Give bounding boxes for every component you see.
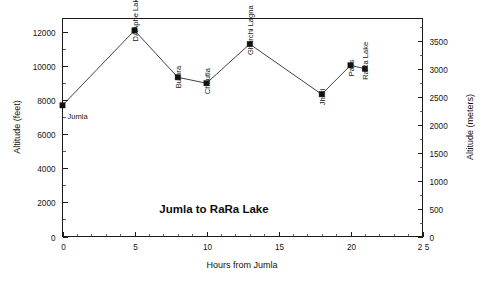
y-right-tick-label: 2500 <box>430 94 449 103</box>
x-tick-label: 2 5 <box>418 243 430 252</box>
x-tick-label: 10 <box>203 243 213 252</box>
x-axis-ticks: 051015202 5 <box>61 232 429 252</box>
y-axis-right-title: Altitude (meters) <box>465 94 475 160</box>
y-right-tick-label: 3000 <box>430 66 449 75</box>
x-axis-title: Hours from Jumla <box>206 260 277 270</box>
data-point-label: DAAphe Lakh <box>131 0 140 41</box>
y-left-tick-label: 8000 <box>37 97 56 106</box>
data-point-label: Jumla <box>68 112 89 121</box>
y-left-tick-label: 4000 <box>37 165 56 174</box>
x-tick-label: 20 <box>347 243 357 252</box>
data-point-label: RaRa Lake <box>361 42 370 80</box>
data-point-label: Chautla <box>203 67 212 94</box>
x-tick-label: 0 <box>61 243 66 252</box>
data-point-label: Ghurchi Lagna <box>246 4 255 55</box>
y-left-tick-label: 0 <box>51 234 56 243</box>
data-point-label: Jhari <box>318 89 327 106</box>
data-point-label: Bumra <box>174 65 183 88</box>
y-right-tick-label: 2000 <box>430 122 449 131</box>
y-left-tick-label: 2000 <box>37 199 56 208</box>
y-right-tick-label: 500 <box>430 206 444 215</box>
y-left-tick-label: 12000 <box>33 29 56 38</box>
y-right-tick-label: 3500 <box>430 38 449 47</box>
y-right-tick-label: 1000 <box>430 178 449 187</box>
y-axis-left-title: Altitude (feet) <box>12 100 22 154</box>
y-left-tick-label: 6000 <box>37 131 56 140</box>
altitude-profile-chart: 020004000600080001000012000 050010001500… <box>0 0 491 281</box>
y-right-tick-label: 0 <box>430 234 435 243</box>
x-tick-label: 15 <box>275 243 285 252</box>
data-point-label: Pass <box>347 59 356 76</box>
data-point-marker <box>60 103 65 108</box>
y-left-tick-label: 10000 <box>33 63 56 72</box>
chart-title: Jumla to RaRa Lake <box>159 203 268 215</box>
chart-figure: 020004000600080001000012000 050010001500… <box>0 0 491 281</box>
x-tick-label: 5 <box>133 243 138 252</box>
y-right-tick-label: 1500 <box>430 150 449 159</box>
